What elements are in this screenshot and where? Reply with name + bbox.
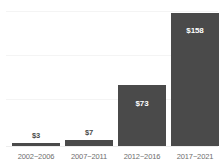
bar-rect[interactable]: $158	[171, 13, 219, 146]
bar-value-label: $73	[118, 99, 166, 108]
bar-chart: $3 $7 $73 $158 2002~2006 2007~2011 2012~…	[0, 0, 222, 168]
axis-baseline	[6, 146, 218, 147]
bar-value-label: $158	[171, 26, 219, 35]
x-tick-label: 2017~2021	[167, 152, 222, 162]
bar-rect[interactable]	[12, 143, 60, 146]
bar-group[interactable]: $158	[170, 0, 220, 146]
x-tick-label: 2002~2006	[8, 152, 64, 162]
x-tick-label: 2012~2016	[114, 152, 170, 162]
x-axis: 2002~2006 2007~2011 2012~2016 2017~2021	[0, 150, 222, 168]
plot-area: $3 $7 $73 $158	[0, 0, 222, 147]
x-tick-label: 2007~2011	[61, 152, 117, 162]
bar-value-label: $7	[64, 128, 114, 137]
bar-group[interactable]: $73	[117, 0, 167, 146]
bar-group[interactable]: $7	[64, 0, 114, 146]
bar-value-label: $3	[11, 131, 61, 140]
bar-rect[interactable]: $73	[118, 85, 166, 146]
bar-group[interactable]: $3	[11, 0, 61, 146]
bar-rect[interactable]	[65, 140, 113, 146]
